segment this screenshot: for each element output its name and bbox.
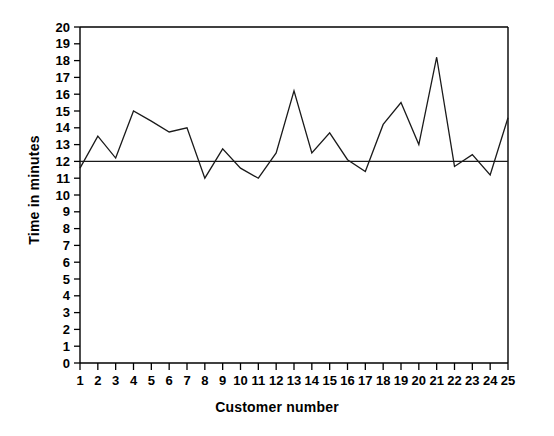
y-tick-label: 17 [56,70,70,85]
x-tick-label: 6 [166,373,173,388]
y-axis-tick-marks [74,27,80,363]
y-tick-label: 10 [56,188,70,203]
x-axis-title: Customer number [0,399,554,415]
x-tick-label: 10 [233,373,247,388]
x-tick-label: 5 [148,373,155,388]
y-tick-label: 20 [56,20,70,35]
y-tick-label: 3 [63,305,70,320]
x-tick-label: 9 [219,373,226,388]
axis-lines [80,27,508,363]
x-tick-label: 7 [183,373,190,388]
x-tick-label: 4 [130,373,138,388]
x-axis-tick-marks [80,363,508,370]
data-series-line [80,57,508,178]
y-tick-label: 13 [56,137,70,152]
y-tick-label: 11 [56,171,70,186]
y-tick-label: 7 [63,238,70,253]
y-tick-label: 19 [56,36,70,51]
x-tick-label: 25 [501,373,515,388]
x-tick-label: 15 [322,373,336,388]
x-tick-label: 17 [358,373,372,388]
y-tick-label: 6 [63,255,70,270]
line-chart-figure: Time in minutes Customer number 01234567… [0,0,554,436]
y-tick-label: 0 [63,356,70,371]
x-tick-label: 23 [465,373,479,388]
x-tick-label: 19 [394,373,408,388]
x-tick-label: 2 [94,373,101,388]
y-tick-label: 4 [63,288,71,303]
y-tick-label: 16 [56,87,70,102]
y-tick-label: 2 [63,322,70,337]
x-tick-label: 18 [376,373,390,388]
x-tick-label: 8 [201,373,208,388]
x-axis-tick-labels: 1234567891011121314151617181920212223242… [76,373,515,388]
y-tick-label: 12 [56,154,70,169]
x-tick-label: 12 [269,373,283,388]
y-tick-label: 9 [63,204,70,219]
y-tick-label: 5 [63,272,70,287]
y-tick-label: 15 [56,104,70,119]
x-tick-label: 1 [76,373,83,388]
x-tick-label: 22 [447,373,461,388]
x-tick-label: 21 [429,373,443,388]
plot-canvas: 01234567891011121314151617181920 1234567… [0,0,554,436]
y-axis-tick-labels: 01234567891011121314151617181920 [56,20,71,371]
x-tick-label: 24 [483,373,498,388]
x-tick-label: 11 [251,373,265,388]
x-tick-label: 13 [287,373,301,388]
y-tick-label: 8 [63,221,70,236]
y-tick-label: 14 [56,120,71,135]
x-tick-label: 3 [112,373,119,388]
x-tick-label: 16 [340,373,354,388]
y-tick-label: 1 [63,339,70,354]
y-tick-label: 18 [56,53,70,68]
x-tick-label: 20 [412,373,426,388]
x-tick-label: 14 [305,373,320,388]
